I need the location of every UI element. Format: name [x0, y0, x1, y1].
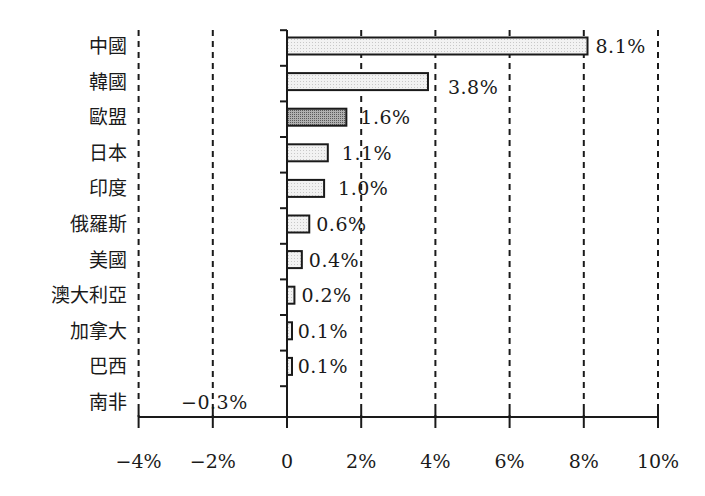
category-label: 俄羅斯	[70, 213, 127, 235]
value-label: 0.1%	[298, 355, 348, 377]
bar	[287, 38, 588, 55]
x-tick-label: −4%	[116, 450, 162, 472]
value-labels: 8.1%3.8%1.6%1.1%1.0%0.6%0.4%0.2%0.1%0.1%…	[181, 35, 646, 413]
x-tick-labels: −4%−2%02%4%6%8%10%	[116, 450, 680, 472]
x-tick-label: 6%	[495, 450, 525, 472]
bar	[287, 144, 328, 161]
category-label: 加拿大	[70, 320, 127, 342]
category-label: 巴西	[89, 355, 127, 377]
bar	[287, 109, 346, 126]
category-label: 歐盟	[89, 106, 127, 128]
bar	[287, 358, 292, 375]
value-label: 1.6%	[360, 106, 410, 128]
bar	[287, 180, 324, 197]
x-tick-label: 8%	[569, 450, 599, 472]
category-labels: 中國韓國歐盟日本印度俄羅斯美國澳大利亞加拿大巴西南非	[51, 35, 127, 413]
category-label: 南非	[89, 391, 127, 413]
value-label: 1.1%	[342, 142, 392, 164]
value-label: 0.6%	[316, 213, 366, 235]
category-label: 日本	[89, 142, 127, 164]
value-label: 0.4%	[309, 249, 359, 271]
bar	[287, 251, 302, 268]
category-label: 澳大利亞	[51, 284, 127, 306]
x-tick-label: 0	[281, 450, 293, 472]
bar	[287, 287, 294, 304]
value-label: −0.3%	[181, 391, 248, 413]
bar	[287, 322, 292, 339]
category-label: 中國	[89, 35, 127, 57]
category-label: 美國	[89, 249, 127, 271]
value-label: 0.1%	[298, 320, 348, 342]
category-label: 印度	[89, 177, 127, 199]
x-tick-label: 10%	[637, 450, 679, 472]
category-label: 韓國	[89, 71, 127, 93]
value-label: 1.0%	[338, 177, 388, 199]
value-label: 8.1%	[596, 35, 646, 57]
bar	[287, 216, 309, 233]
x-tick-label: 4%	[420, 450, 450, 472]
x-tick-label: 2%	[346, 450, 376, 472]
value-label: 3.8%	[448, 76, 498, 98]
bar	[287, 73, 428, 90]
bar-chart: 中國韓國歐盟日本印度俄羅斯美國澳大利亞加拿大巴西南非 8.1%3.8%1.6%1…	[0, 0, 705, 496]
x-tick-label: −2%	[190, 450, 236, 472]
value-label: 0.2%	[301, 284, 351, 306]
